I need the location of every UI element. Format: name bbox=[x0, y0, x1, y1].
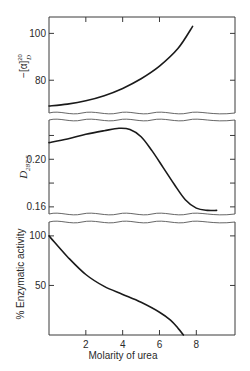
y-tick-label: 80 bbox=[35, 75, 47, 86]
bottom-ylabel: % Enzymatic activity bbox=[15, 228, 26, 319]
urea-denaturation-figure: 80100 −[α]20D 0.160.20 D287.5 501002468 … bbox=[0, 0, 250, 371]
x-tick-label: 2 bbox=[83, 339, 89, 350]
bottom-panel-break-line bbox=[49, 221, 235, 223]
middle-panel: 0.160.20 D287.5 bbox=[17, 119, 235, 215]
top-panel-break-line bbox=[49, 112, 235, 114]
top-series-line bbox=[49, 26, 193, 106]
y-tick-label: 100 bbox=[29, 230, 46, 241]
y-tick-label: 50 bbox=[35, 280, 47, 291]
bottom-panel: 501002468 % Enzymatic activity Molarity … bbox=[15, 221, 235, 361]
y-tick-label: 0.16 bbox=[27, 201, 47, 212]
x-tick-label: 6 bbox=[157, 339, 163, 350]
top-ylabel: −[α]20D bbox=[17, 53, 33, 78]
x-tick-label: 8 bbox=[194, 339, 200, 350]
x-tick-label: 4 bbox=[120, 339, 126, 350]
bot-series-line bbox=[49, 236, 183, 335]
mid-series-line bbox=[49, 128, 217, 210]
y-tick-label: 100 bbox=[29, 28, 46, 39]
top-panel-frame bbox=[49, 17, 235, 113]
bottom-panel-frame bbox=[49, 222, 235, 335]
top-panel: 80100 −[α]20D bbox=[17, 17, 235, 114]
middle-ylabel: D287.5 bbox=[17, 155, 32, 180]
middle-panel-top-break-line bbox=[49, 119, 235, 121]
middle-panel-bottom-break-line bbox=[49, 213, 235, 215]
x-axis-label: Molarity of urea bbox=[89, 350, 158, 361]
